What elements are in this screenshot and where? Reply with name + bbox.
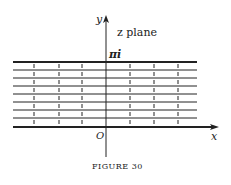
- strip-diagram: [0, 0, 231, 185]
- origin-label: O: [96, 131, 104, 141]
- figure-caption: FIGURE 30: [92, 163, 143, 171]
- top-boundary-label: πi: [109, 49, 121, 60]
- x-axis-label: x: [211, 131, 217, 142]
- y-axis-label: y: [96, 14, 102, 25]
- plane-label: z plane: [117, 27, 157, 38]
